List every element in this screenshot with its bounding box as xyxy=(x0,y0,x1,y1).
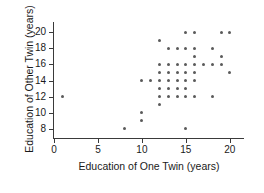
data-point xyxy=(61,95,64,98)
data-point xyxy=(193,79,196,82)
data-point xyxy=(167,47,170,50)
y-tick-label: 16 xyxy=(24,58,46,69)
data-point xyxy=(193,55,196,58)
data-point xyxy=(167,95,170,98)
y-tick-label: 20 xyxy=(24,26,46,37)
x-tick-label: 20 xyxy=(218,144,242,156)
y-tick-label: 18 xyxy=(24,42,46,53)
data-point xyxy=(220,55,223,58)
x-tick-mark xyxy=(54,139,55,143)
data-point xyxy=(184,71,187,74)
x-axis-line xyxy=(53,138,244,139)
data-point xyxy=(228,31,231,34)
x-tick-label: 5 xyxy=(86,144,110,156)
x-tick-label: 0 xyxy=(42,144,66,156)
y-tick-label: 14 xyxy=(24,75,46,86)
x-tick-label: 15 xyxy=(174,144,198,156)
data-point xyxy=(184,47,187,50)
x-tick-mark xyxy=(142,139,143,143)
x-tick-mark xyxy=(98,139,99,143)
data-point xyxy=(176,71,179,74)
data-point xyxy=(167,63,170,66)
data-point xyxy=(176,47,179,50)
data-point xyxy=(140,111,143,114)
data-point xyxy=(193,71,196,74)
data-point xyxy=(158,87,161,90)
y-tick-mark xyxy=(49,97,53,98)
data-point xyxy=(211,95,214,98)
data-point xyxy=(211,63,214,66)
y-tick-mark xyxy=(49,113,53,114)
y-tick-mark xyxy=(49,81,53,82)
data-point xyxy=(193,31,196,34)
data-point xyxy=(149,79,152,82)
data-point xyxy=(184,127,187,130)
x-tick-mark xyxy=(230,139,231,143)
data-point xyxy=(158,39,161,42)
data-point xyxy=(176,79,179,82)
y-tick-mark xyxy=(49,32,53,33)
y-tick-label: 10 xyxy=(24,107,46,118)
data-point xyxy=(202,63,205,66)
data-point xyxy=(167,87,170,90)
data-point xyxy=(140,79,143,82)
x-axis-title: Education of One Twin (years) xyxy=(40,160,258,172)
data-point xyxy=(184,79,187,82)
data-point xyxy=(184,87,187,90)
data-point xyxy=(220,31,223,34)
data-point xyxy=(176,63,179,66)
y-tick-label: 8 xyxy=(24,123,46,134)
data-point xyxy=(193,63,196,66)
data-point xyxy=(167,79,170,82)
data-point xyxy=(184,63,187,66)
data-point xyxy=(158,95,161,98)
data-point xyxy=(220,63,223,66)
data-point xyxy=(123,127,126,130)
data-point xyxy=(211,47,214,50)
scatter-plot-figure: Education of One Twin (years) Education … xyxy=(0,0,264,193)
data-point xyxy=(193,95,196,98)
data-point xyxy=(158,79,161,82)
data-point xyxy=(184,95,187,98)
data-point xyxy=(158,71,161,74)
data-point xyxy=(140,119,143,122)
data-point xyxy=(167,71,170,74)
y-tick-label: 12 xyxy=(24,91,46,102)
y-tick-mark xyxy=(49,48,53,49)
data-point xyxy=(176,95,179,98)
y-tick-mark xyxy=(49,64,53,65)
data-point xyxy=(184,31,187,34)
data-point xyxy=(176,87,179,90)
data-point xyxy=(158,63,161,66)
y-tick-mark xyxy=(49,129,53,130)
x-tick-label: 10 xyxy=(130,144,154,156)
data-point xyxy=(228,71,231,74)
data-point xyxy=(193,47,196,50)
data-point xyxy=(158,103,161,106)
plot-data-area xyxy=(54,24,243,137)
x-tick-mark xyxy=(186,139,187,143)
